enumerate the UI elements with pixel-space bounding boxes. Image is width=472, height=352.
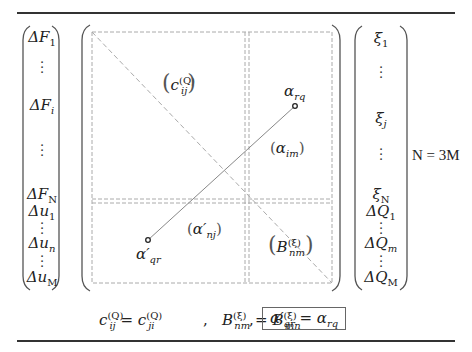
- vec-entry: ΔFN: [12, 186, 72, 202]
- boxed-equation: α′qr = αrq: [262, 307, 346, 330]
- relation-N-3M: N = 3M: [412, 147, 460, 164]
- label-alpha-rq: αrq: [284, 82, 305, 100]
- vertical-ellipsis: ···: [351, 254, 411, 269]
- separator-comma: ,: [203, 311, 208, 329]
- point-alpha-prime-qr: [146, 238, 151, 243]
- vertical-ellipsis: ···: [12, 60, 72, 75]
- vertical-ellipsis: ···: [12, 254, 72, 269]
- vertical-ellipsis: ···: [351, 65, 411, 80]
- vertical-ellipsis: ···: [351, 147, 411, 162]
- label-alpha-prime-qr: α′qr: [136, 245, 161, 263]
- equation-alpha-transpose-boxed: α′qr = αrq: [262, 309, 346, 327]
- block-alpha-im: (αim): [270, 139, 305, 157]
- equation-c-symmetry: c(Q)ij = c(Q)ji: [99, 311, 155, 329]
- block-c-ij-Q: (c(Q)ij): [162, 70, 196, 95]
- vec-entry: ξj: [351, 110, 411, 126]
- block-B-nm-xi: (B(ξ)nm): [268, 232, 313, 257]
- vec-entry: ξ1: [351, 30, 411, 46]
- point-alpha-rq: [293, 104, 298, 109]
- block-alpha-prime-nj: (α′nj): [187, 220, 222, 238]
- vec-entry: ξN: [351, 186, 411, 202]
- vec-entry: ΔFi: [12, 97, 72, 113]
- vec-entry: ΔF1: [12, 29, 72, 45]
- vec-entry: ΔuM: [12, 269, 72, 285]
- diagram-graphics: [0, 0, 472, 352]
- separator-comma: ,: [249, 311, 254, 329]
- vertical-ellipsis: ···: [12, 143, 72, 158]
- vec-entry: ΔQM: [351, 269, 411, 285]
